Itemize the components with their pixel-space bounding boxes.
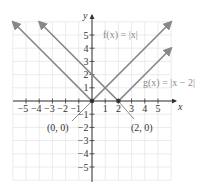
x-tick-label: −3 (44, 103, 55, 114)
x-tick-label: −5 (18, 103, 29, 114)
y-tick-label: 4 (84, 43, 89, 54)
x-tick-label: 4 (142, 103, 147, 114)
y-tick-label: −4 (78, 148, 89, 159)
absolute-value-graph: −5−4−3−2−112345−5−4−3−2−112345 x y f(x) … (0, 0, 213, 185)
x-tick-label: 2 (116, 103, 121, 114)
x-tick-label: −4 (31, 103, 42, 114)
vertex-label-2-0: (2, 0) (131, 122, 153, 134)
vertex-dot-2-0 (116, 99, 121, 104)
y-axis-label: y (82, 10, 88, 21)
y-tick-label: −5 (78, 162, 89, 173)
x-tick-label: −2 (57, 103, 68, 114)
y-tick-label: 3 (84, 56, 89, 67)
vertex-label-origin: (0, 0) (47, 122, 69, 134)
g-function-label: g(x) = |x − 2| (143, 77, 195, 89)
y-tick-label: −1 (78, 109, 89, 120)
x-tick-label: 3 (129, 103, 134, 114)
y-tick-label: −2 (78, 122, 89, 133)
x-tick-label: 5 (156, 103, 161, 114)
f-function-label: f(x) = |x| (103, 29, 138, 41)
y-tick-label: 1 (84, 82, 89, 93)
x-axis-label: x (177, 101, 183, 112)
x-tick-label: 1 (103, 103, 108, 114)
y-tick-label: 5 (84, 30, 89, 41)
y-tick-label: −3 (78, 135, 89, 146)
